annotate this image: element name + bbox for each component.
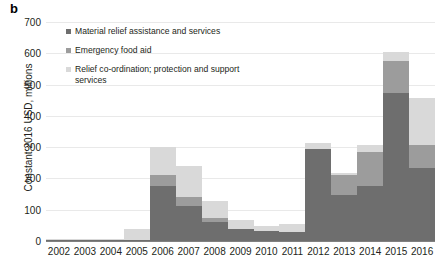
stacked-bar [202, 201, 228, 241]
y-tick-label: 100 [24, 204, 41, 215]
bar-segment [357, 145, 383, 153]
x-tick-label-2003: 2003 [72, 246, 98, 257]
x-tick-label-2005: 2005 [124, 246, 150, 257]
figure-panel-b: b Constant 2016 USD, millions 0100200300… [0, 0, 441, 265]
stacked-bar [279, 224, 305, 241]
y-tick-label: 700 [24, 17, 41, 28]
bar-segment [150, 186, 176, 241]
bar-segment [357, 152, 383, 185]
x-tick-label-2009: 2009 [228, 246, 254, 257]
stacked-bar [176, 166, 202, 241]
legend-item-relief: Relief co-ordination; protection and sup… [66, 64, 265, 86]
bar-segment [202, 201, 228, 218]
x-tick-label-2013: 2013 [331, 246, 357, 257]
x-tick-label-2010: 2010 [254, 246, 280, 257]
stacked-bar [72, 239, 98, 241]
bar-segment [228, 220, 254, 229]
bar-segment [409, 168, 435, 241]
bar-segment [46, 240, 72, 241]
stacked-bar [228, 220, 254, 241]
bar-segment [228, 229, 254, 241]
stacked-bar [383, 52, 409, 241]
bar-segment [176, 197, 202, 206]
legend-label: Emergency food aid [75, 45, 151, 56]
x-tick-label-2011: 2011 [279, 246, 305, 257]
y-tick-label: 200 [24, 173, 41, 184]
bar-segment [331, 195, 357, 241]
stacked-bar [331, 173, 357, 241]
x-tick-label-2015: 2015 [383, 246, 409, 257]
bar-segment [383, 52, 409, 61]
y-tick-label: 600 [24, 48, 41, 59]
stacked-bar [46, 239, 72, 241]
y-tick-label: 500 [24, 79, 41, 90]
x-tick-label-2002: 2002 [46, 246, 72, 257]
bar-segment [72, 240, 98, 241]
panel-letter: b [10, 2, 18, 16]
bar-segment [150, 147, 176, 175]
legend-swatch-icon [66, 29, 71, 34]
bar-segment [409, 98, 435, 145]
x-tick-label-2007: 2007 [176, 246, 202, 257]
bar-segment [279, 232, 305, 241]
bar-group-2016 [409, 22, 435, 241]
bar-segment [124, 240, 150, 241]
bar-segment [254, 231, 280, 241]
stacked-bar [409, 98, 435, 241]
bar-segment [279, 224, 305, 232]
bar-group-2011 [279, 22, 305, 241]
bar-segment [176, 206, 202, 241]
stacked-bar [254, 226, 280, 241]
bar-group-2012 [305, 22, 331, 241]
legend: Material relief assistance and servicesE… [66, 26, 265, 94]
x-tick-label-2012: 2012 [305, 246, 331, 257]
stacked-bar [98, 239, 124, 241]
bar-group-2015 [383, 22, 409, 241]
bar-segment [124, 229, 150, 240]
legend-item-food: Emergency food aid [66, 45, 265, 56]
bar-segment [98, 240, 124, 241]
x-tick-label-2006: 2006 [150, 246, 176, 257]
legend-swatch-icon [66, 48, 71, 53]
legend-label: Relief co-ordination; protection and sup… [75, 64, 265, 86]
x-tick-label-2004: 2004 [98, 246, 124, 257]
bar-segment [150, 175, 176, 185]
bar-segment [409, 145, 435, 169]
bar-segment [383, 61, 409, 93]
stacked-bar [124, 229, 150, 241]
bar-segment [305, 149, 331, 241]
legend-label: Material relief assistance and services [75, 26, 220, 37]
bar-segment [202, 222, 228, 241]
y-tick-label: 0 [35, 236, 41, 247]
bar-segment [383, 93, 409, 241]
bar-segment [176, 166, 202, 196]
bar-segment [357, 186, 383, 241]
axis-line-zero: 0 [46, 241, 435, 242]
stacked-bar [305, 143, 331, 241]
bar-group-2013 [331, 22, 357, 241]
y-tick-label: 300 [24, 142, 41, 153]
bar-segment [331, 175, 357, 194]
x-tick-label-2016: 2016 [409, 246, 435, 257]
x-tick-label-2008: 2008 [202, 246, 228, 257]
stacked-bar [150, 147, 176, 241]
bar-group-2014 [357, 22, 383, 241]
legend-item-material: Material relief assistance and services [66, 26, 265, 37]
legend-swatch-icon [66, 67, 71, 72]
y-tick-label: 400 [24, 110, 41, 121]
x-axis-tick-labels: 2002200320042005200620072008200920102011… [46, 246, 435, 257]
x-tick-label-2014: 2014 [357, 246, 383, 257]
stacked-bar [357, 145, 383, 241]
